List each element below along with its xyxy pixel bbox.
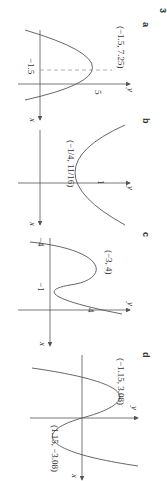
y-axis-label: y <box>126 87 136 92</box>
vertex-label: (−1/4, 11/16) <box>66 140 76 187</box>
panel-b: b 1 (−1/4, 11/16) y x <box>18 118 151 226</box>
x-axis-label: x <box>70 473 80 478</box>
x-axis-label: x <box>38 341 48 346</box>
parabola-curve <box>75 125 125 225</box>
min-label: (1.15, −3.08) <box>50 425 60 472</box>
panel-a-label: a <box>141 22 151 28</box>
vertex-label: (−1.5, 7.25) <box>116 26 126 69</box>
tick-label: 4 <box>86 308 96 313</box>
panel-a: a (−1.5, 7.25) −1.5 5 y x <box>18 22 151 122</box>
panel-d: d (−1.15, 3.08) (1.15, −3.08) y x <box>30 352 151 480</box>
max-label: (−1.15, 3.08) <box>116 358 126 405</box>
tick-label: −1 <box>36 282 46 292</box>
tick-label: −1.5 <box>26 58 36 75</box>
y-axis-label: y <box>126 301 136 306</box>
x-axis-label: x <box>28 117 38 122</box>
tick-label: 5 <box>93 90 103 95</box>
y-axis-label: y <box>130 405 140 410</box>
tick-label: 1 <box>96 180 106 185</box>
panel-c-label: c <box>141 232 151 237</box>
figure-number: 3 <box>158 8 167 13</box>
panel-d-label: d <box>141 352 151 358</box>
max-label: (−3, 4) <box>104 250 114 275</box>
y-axis-label: y <box>126 185 136 190</box>
panel-b-label: b <box>141 118 151 124</box>
panel-c: c (−3, 4) −4 −1 4 y x <box>18 232 151 346</box>
tick-label: −4 <box>36 237 46 247</box>
figure-canvas: 3 a (−1.5, 7.25) −1.5 5 y x b 1 (−1/4, 1… <box>0 0 167 481</box>
x-axis-label: x <box>28 221 38 226</box>
